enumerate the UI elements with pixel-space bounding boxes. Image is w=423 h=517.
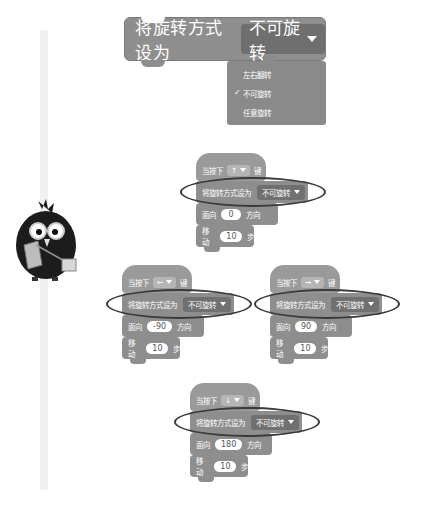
block-tab	[198, 477, 214, 482]
key-value: ↑	[231, 166, 237, 175]
key-value: ↓	[225, 396, 231, 405]
rotation-style-dropdown[interactable]: 不可旋转	[241, 24, 325, 54]
block-tab	[278, 359, 294, 364]
direction-input[interactable]: 0	[221, 209, 241, 220]
steps-input[interactable]: 10	[294, 343, 316, 354]
direction-input[interactable]: 90	[295, 321, 317, 332]
block-suffix: 方向	[246, 209, 260, 220]
key-dropdown[interactable]: ↓	[221, 395, 244, 406]
move-steps-block[interactable]: 移动 10 步	[270, 337, 328, 359]
steps-input[interactable]: 10	[214, 461, 236, 472]
highlight-ellipse	[180, 177, 326, 207]
move-steps-block[interactable]: 移动 10 步	[190, 455, 248, 477]
dropdown-arrow-icon	[307, 36, 317, 42]
menu-item-dont-rotate[interactable]: ✓ 不可旋转	[243, 88, 271, 99]
set-rotation-style-block[interactable]: 将旋转方式设为 不可旋转	[124, 17, 326, 61]
steps-input[interactable]: 10	[220, 231, 242, 242]
menu-item-left-right[interactable]: 左右翻转	[243, 69, 271, 80]
move-steps-block[interactable]: 移动 10 步	[122, 337, 180, 359]
menu-pointer	[263, 56, 275, 62]
highlight-ellipse	[174, 407, 320, 437]
key-dropdown[interactable]: →	[301, 277, 324, 288]
key-dropdown[interactable]: ←	[153, 277, 176, 288]
dropdown-arrow-icon	[166, 280, 172, 284]
menu-item-label: 不可旋转	[243, 90, 271, 99]
block-tab	[141, 60, 165, 67]
checkmark-icon: ✓	[234, 88, 241, 97]
hat-prefix: 当按下	[196, 395, 217, 406]
block-label: 移动	[276, 337, 289, 359]
block-label: 移动	[196, 455, 209, 477]
block-suffix: 步	[241, 461, 248, 472]
hat-suffix: 键	[248, 395, 255, 406]
rotation-style-menu: 左右翻转 ✓ 不可旋转 任意旋转	[227, 61, 326, 125]
block-label: 面向	[128, 321, 142, 332]
block-label: 面向	[276, 321, 290, 332]
block-suffix: 方向	[177, 321, 191, 332]
menu-item-label: 左右翻转	[243, 71, 271, 80]
block-label: 移动	[202, 225, 215, 247]
highlight-ellipse	[254, 289, 400, 319]
block-suffix: 步	[247, 231, 254, 242]
direction-input[interactable]: -90	[147, 321, 172, 332]
direction-input[interactable]: 180	[215, 439, 242, 450]
block-label: 面向	[202, 209, 216, 220]
block-tab	[204, 247, 220, 252]
dropdown-arrow-icon	[240, 168, 246, 172]
block-suffix: 步	[173, 343, 180, 354]
move-steps-block[interactable]: 移动 10 步	[196, 225, 254, 247]
block-label: 移动	[128, 337, 141, 359]
bird-icon	[8, 195, 80, 283]
hat-prefix: 当按下	[128, 277, 149, 288]
highlight-ellipse	[106, 289, 252, 319]
hat-suffix: 键	[328, 277, 335, 288]
steps-input[interactable]: 10	[146, 343, 168, 354]
dropdown-arrow-icon	[314, 280, 320, 284]
hat-prefix: 当按下	[276, 277, 297, 288]
block-suffix: 方向	[322, 321, 336, 332]
block-suffix: 步	[321, 343, 328, 354]
key-dropdown[interactable]: ↑	[227, 165, 250, 176]
block-notch	[141, 17, 165, 23]
key-value: →	[305, 278, 311, 287]
hat-prefix: 当按下	[202, 165, 223, 176]
block-suffix: 方向	[247, 439, 261, 450]
menu-item-all-around[interactable]: 任意旋转	[243, 107, 271, 118]
dropdown-arrow-icon	[234, 398, 240, 402]
key-value: ←	[157, 278, 163, 287]
menu-item-label: 任意旋转	[243, 109, 271, 118]
block-tab	[130, 359, 146, 364]
bird-sprite[interactable]	[8, 195, 80, 283]
hat-suffix: 键	[254, 165, 261, 176]
block-label: 面向	[196, 439, 210, 450]
hat-suffix: 键	[180, 277, 187, 288]
